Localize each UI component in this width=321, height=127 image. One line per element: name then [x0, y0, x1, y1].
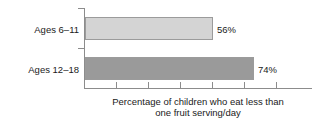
value-axis-tick-6 — [276, 82, 277, 89]
value-axis-tick-3 — [180, 82, 181, 89]
value-axis-caption-line-2: one fruit serving/day — [84, 108, 312, 119]
value-axis-tick-1 — [116, 82, 117, 89]
category-axis-tick-middle — [78, 48, 85, 49]
value-axis-line — [84, 88, 312, 89]
value-label-ages-12-18: 74% — [258, 64, 277, 75]
value-axis-caption: Percentage of children who eat less than… — [84, 97, 312, 118]
category-label-ages-12-18: Ages 12–18 — [28, 64, 79, 75]
value-axis-tick-2 — [148, 82, 149, 89]
value-axis-caption-line-1: Percentage of children who eat less than — [84, 97, 312, 108]
category-axis-tick-top — [78, 8, 85, 9]
bar-ages-12-18 — [85, 57, 254, 80]
bar-ages-6-11 — [85, 17, 213, 40]
value-label-ages-6-11: 56% — [217, 24, 236, 35]
value-axis-tick-5 — [244, 82, 245, 89]
bar-chart: Ages 6–11 56% Ages 12–18 74% Percentage … — [0, 0, 321, 127]
value-axis-tick-4 — [212, 82, 213, 89]
value-axis-tick-0 — [84, 82, 85, 89]
category-label-ages-6-11: Ages 6–11 — [34, 24, 79, 35]
